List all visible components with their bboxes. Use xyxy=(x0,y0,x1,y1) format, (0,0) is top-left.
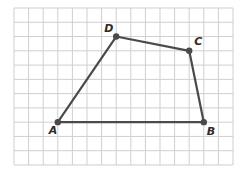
vertex-label-A: A xyxy=(48,124,58,137)
vertex-label-C: C xyxy=(194,35,202,48)
quadrilateral-diagram: ABCD xyxy=(0,0,242,177)
vertex-label-B: B xyxy=(207,125,215,138)
edge-BC xyxy=(189,51,204,122)
edge-CD xyxy=(116,37,189,51)
vertex-label-D: D xyxy=(104,22,113,35)
grid xyxy=(14,8,233,165)
vertex-D xyxy=(113,33,119,39)
vertex-C xyxy=(186,48,192,54)
